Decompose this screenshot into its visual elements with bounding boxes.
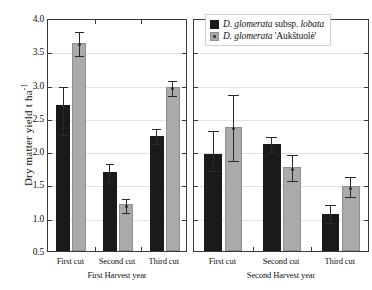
legend-label-aukstuole: D. glomerata 'Aukštuolė' [223, 31, 316, 41]
error-bar-cap-top [208, 131, 219, 132]
error-bar-stem [213, 131, 214, 172]
bar [150, 136, 164, 251]
error-bar-cap-top [59, 87, 68, 88]
error-bar-cap-bottom [168, 96, 177, 97]
error-bar-cap-bottom [287, 181, 298, 182]
bar [103, 172, 117, 251]
y-axis-tick-label: 3.5 [18, 47, 44, 57]
chart-figure: Dry matter yield t ha-1 4.03.53.02.52.01… [0, 0, 372, 290]
gridline [194, 53, 368, 54]
error-bar [59, 87, 68, 137]
y-axis-tick-label: 3.0 [18, 81, 44, 91]
x-axis-category-label: First cut [57, 256, 84, 266]
y-axis-tick-mark [364, 53, 368, 54]
y-axis-tick-mark [182, 120, 186, 121]
gridline [194, 87, 368, 88]
legend-label-aukstuole-genus: D. glomerata [223, 31, 272, 41]
legend-label-lobata: D. glomerata subsp. lobata [223, 19, 324, 29]
error-bar-cap-top [325, 205, 336, 206]
y-axis-tick-mark [194, 186, 198, 187]
error-bar-cap-top [168, 81, 177, 82]
x-axis-tick-mark [95, 20, 96, 24]
error-bar-mean-marker [171, 87, 174, 90]
error-bar-cap-bottom [345, 197, 356, 198]
error-bar-cap-top [266, 137, 277, 138]
error-bar [325, 205, 336, 224]
x-axis-category-label: Third cut [324, 256, 355, 266]
y-axis-tick-labels: 4.03.53.02.52.01.51.00.5 [18, 0, 44, 290]
panel-title: First Harvest year [87, 270, 146, 280]
error-bar-cap-bottom [122, 213, 131, 214]
x-axis-category-label: Second cut [263, 256, 300, 266]
x-axis-tick-mark [141, 247, 142, 251]
error-bar-cap-bottom [266, 153, 277, 154]
x-axis-category-label: First cut [209, 256, 236, 266]
y-axis-tick-mark [194, 153, 198, 154]
x-axis-tick-mark [311, 247, 312, 251]
y-axis-tick-mark [364, 186, 368, 187]
y-axis-tick-mark [48, 153, 52, 154]
y-axis-tick-mark [48, 220, 52, 221]
legend-label-lobata-genus: D. glomerata [223, 19, 272, 29]
error-bar-mean-marker [291, 168, 294, 171]
legend-label-lobata-mid: subsp. [272, 19, 300, 29]
error-bar [152, 129, 161, 145]
y-axis-tick-label: 1.5 [18, 180, 44, 190]
y-axis-tick-label: 0.5 [18, 247, 44, 257]
error-bar [168, 81, 177, 97]
error-bar-cap-bottom [75, 56, 84, 57]
error-bar [106, 164, 115, 183]
legend-item-aukstuole: D. glomerata 'Aukštuolė' [210, 30, 324, 42]
x-axis-category-label: Second cut [99, 256, 136, 266]
error-bar-mean-marker [270, 144, 273, 147]
error-bar-mean-marker [108, 173, 111, 176]
x-axis-tick-mark [141, 20, 142, 24]
y-axis-tick-mark [194, 87, 198, 88]
y-axis-tick-mark [182, 153, 186, 154]
error-bar [345, 177, 356, 198]
error-bar-cap-bottom [208, 171, 219, 172]
error-bar-mean-marker [155, 136, 158, 139]
y-axis-tick-label: 2.0 [18, 147, 44, 157]
legend-label-lobata-epithet: lobata [300, 19, 324, 29]
y-axis-tick-mark [182, 186, 186, 187]
error-bar-cap-top [345, 177, 356, 178]
bar [72, 43, 86, 251]
error-bar-mean-marker [232, 127, 235, 130]
bar [263, 144, 281, 251]
error-bar-cap-bottom [325, 223, 336, 224]
error-bar-mean-marker [78, 43, 81, 46]
error-bar-mean-marker [62, 105, 65, 108]
plot-panel-second-harvest-year [193, 19, 369, 252]
error-bar-cap-top [152, 129, 161, 130]
error-bar-cap-bottom [228, 161, 239, 162]
error-bar-mean-marker [125, 205, 128, 208]
legend-swatch-grey-icon [210, 32, 219, 41]
panel-title: Second Harvest year [247, 270, 315, 280]
error-bar-mean-marker [349, 187, 352, 190]
y-axis-tick-mark [364, 153, 368, 154]
error-bar-stem [63, 87, 64, 137]
x-axis-category-label: Third cut [148, 256, 179, 266]
error-bar-cap-top [228, 95, 239, 96]
error-bar [287, 155, 298, 182]
gridline [48, 53, 186, 54]
error-bar-cap-bottom [59, 135, 68, 136]
y-axis-tick-mark [48, 186, 52, 187]
y-axis-tick-mark [364, 220, 368, 221]
legend-label-aukstuole-cultivar: 'Aukštuolė' [275, 31, 316, 41]
y-axis-tick-mark [48, 87, 52, 88]
error-bar-cap-bottom [106, 182, 115, 183]
chart-legend: D. glomerata subsp. lobata D. glomerata … [205, 14, 331, 46]
x-axis-tick-mark [95, 247, 96, 251]
y-axis-tick-mark [182, 220, 186, 221]
legend-item-lobata: D. glomerata subsp. lobata [210, 18, 324, 30]
y-axis-tick-mark [364, 87, 368, 88]
y-axis-tick-mark [182, 87, 186, 88]
error-bar-mean-marker [329, 215, 332, 218]
y-axis-tick-mark [194, 53, 198, 54]
error-bar-cap-top [75, 32, 84, 33]
y-axis-tick-mark [48, 120, 52, 121]
y-axis-tick-mark [364, 120, 368, 121]
y-axis-tick-mark [194, 120, 198, 121]
